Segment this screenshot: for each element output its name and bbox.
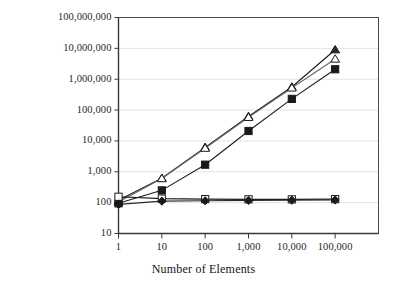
- y-tick-label: 1,000: [87, 166, 111, 177]
- series-filled-triangle: [114, 45, 339, 203]
- y-tick-label: 1,000,000: [69, 74, 112, 85]
- gridlines: [119, 18, 379, 203]
- x-axis-title: Number of Elements: [0, 262, 407, 276]
- y-tick-label: 10,000: [82, 135, 111, 146]
- data-point-filled-square: [158, 187, 165, 194]
- x-tick-label: 100,000: [295, 242, 375, 253]
- series-line: [119, 197, 336, 200]
- x-axis-ticks: [119, 234, 336, 239]
- y-tick-label: 100: [95, 197, 111, 208]
- data-point-filled-triangle: [331, 45, 340, 52]
- series-line: [119, 59, 336, 202]
- data-point-filled-square: [245, 127, 252, 134]
- y-tick-label: 100,000: [77, 105, 112, 116]
- series-open-triangle: [114, 55, 339, 205]
- y-tick-label: 10,000,000: [63, 43, 111, 54]
- data-point-open-triangle: [331, 55, 340, 62]
- data-point-filled-square: [202, 161, 209, 168]
- data-point-open-square: [115, 193, 122, 200]
- data-point-filled-square: [332, 66, 339, 73]
- data-series: [114, 45, 339, 208]
- log-log-chart: 100,000,00010,000,0001,000,000100,00010,…: [0, 0, 407, 292]
- data-point-filled-square: [288, 95, 295, 102]
- y-tick-label: 100,000,000: [58, 12, 112, 23]
- series-line: [119, 50, 336, 200]
- y-tick-label: 10: [101, 228, 112, 239]
